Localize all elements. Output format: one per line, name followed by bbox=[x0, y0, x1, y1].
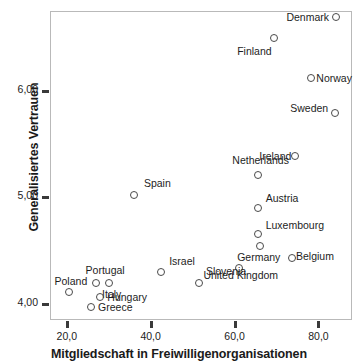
data-label-austria: Austria bbox=[266, 193, 299, 204]
data-label-poland: Poland bbox=[55, 276, 88, 287]
plot-area: DenmarkFinlandNorwaySwedenNetherlandsIre… bbox=[50, 11, 352, 320]
data-label-belgium: Belgium bbox=[296, 251, 334, 262]
data-point-germany[interactable] bbox=[256, 242, 264, 250]
data-point-austria[interactable] bbox=[254, 204, 262, 212]
data-point-spain[interactable] bbox=[130, 191, 138, 199]
data-point-finland[interactable] bbox=[270, 34, 278, 42]
data-point-portugal[interactable] bbox=[92, 279, 100, 287]
data-point-netherlands[interactable] bbox=[254, 171, 262, 179]
x-tick-mark bbox=[150, 321, 153, 328]
data-point-sweden[interactable] bbox=[331, 109, 339, 117]
data-label-portugal: Portugal bbox=[86, 265, 125, 276]
x-tick-mark bbox=[317, 321, 320, 328]
data-label-denmark: Denmark bbox=[286, 12, 329, 23]
data-point-poland[interactable] bbox=[65, 288, 73, 296]
data-point-luxembourg[interactable] bbox=[254, 230, 262, 238]
data-point-belgium[interactable] bbox=[288, 254, 296, 262]
y-tick-mark bbox=[42, 196, 49, 199]
x-tick-mark bbox=[66, 321, 69, 328]
data-label-germany: Germany bbox=[237, 252, 280, 263]
y-tick-label: 5,00 bbox=[0, 189, 38, 201]
data-label-ireland: Ireland bbox=[259, 150, 291, 161]
data-point-hungary[interactable] bbox=[96, 293, 104, 301]
y-tick-mark bbox=[42, 90, 49, 93]
y-tick-label: 4,00 bbox=[0, 296, 38, 308]
x-tick-label: 80,0 bbox=[293, 330, 343, 342]
x-tick-label: 60,0 bbox=[210, 330, 260, 342]
data-point-norway[interactable] bbox=[307, 74, 315, 82]
y-axis-title: Generalisiertes Vertrauen bbox=[27, 37, 41, 277]
x-tick-label: 20,0 bbox=[42, 330, 92, 342]
data-point-israel[interactable] bbox=[157, 268, 165, 276]
data-label-spain: Spain bbox=[144, 178, 171, 189]
data-point-slovenia[interactable] bbox=[195, 279, 203, 287]
data-label-israel: Israel bbox=[169, 256, 195, 267]
data-point-ireland[interactable] bbox=[291, 152, 299, 160]
x-tick-mark bbox=[234, 321, 237, 328]
x-tick-label: 40,0 bbox=[126, 330, 176, 342]
data-point-denmark[interactable] bbox=[332, 13, 340, 21]
y-tick-mark bbox=[42, 303, 49, 306]
data-point-italy[interactable] bbox=[105, 279, 113, 287]
data-label-slovenia: Slovenia bbox=[206, 265, 246, 276]
y-tick-label: 6,00 bbox=[0, 83, 38, 95]
data-label-greece: Greece bbox=[98, 302, 132, 313]
data-label-luxembourg: Luxembourg bbox=[266, 219, 324, 230]
x-axis-title: Mitgliedschaft in Freiwilligenorganisati… bbox=[0, 347, 358, 361]
data-point-greece[interactable] bbox=[87, 303, 95, 311]
data-label-finland: Finland bbox=[237, 46, 271, 57]
data-label-norway: Norway bbox=[316, 73, 352, 84]
data-label-sweden: Sweden bbox=[290, 103, 328, 114]
